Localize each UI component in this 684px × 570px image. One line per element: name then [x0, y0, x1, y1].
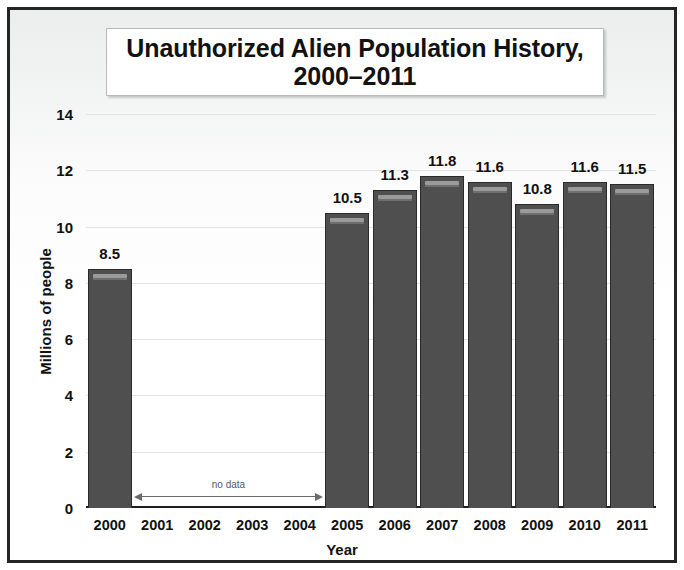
no-data-arrow-head-left	[134, 493, 142, 501]
y-axis-tick-label: 12	[56, 162, 73, 179]
y-axis-tick-label: 2	[65, 443, 73, 460]
x-axis-tick-label-2007: 2007	[426, 517, 458, 533]
bar-shade	[425, 185, 459, 187]
bar-shade	[520, 213, 554, 215]
x-axis-tick-label-2002: 2002	[189, 517, 221, 533]
bar-shade	[378, 199, 412, 201]
bar-shade	[93, 278, 127, 280]
bar-highlight	[425, 181, 459, 185]
bar-2011	[610, 184, 654, 508]
y-axis-tick-label: 8	[65, 274, 73, 291]
bar-value-label-2008: 11.6	[476, 158, 504, 175]
bar-highlight	[615, 189, 649, 193]
gridline	[86, 114, 656, 115]
y-axis-tick-label: 4	[65, 387, 73, 404]
chart-title-line-2: 2000–2011	[126, 62, 583, 90]
x-axis-tick-label-2003: 2003	[236, 517, 268, 533]
chart-title-line-1: Unauthorized Alien Population History,	[126, 34, 583, 62]
bar-value-label-2007: 11.8	[428, 152, 456, 169]
y-axis-tick-label: 14	[56, 106, 73, 123]
plot-area: 024681012148.52000200120022003200410.520…	[86, 114, 656, 508]
bar-value-label-2005: 10.5	[333, 189, 362, 206]
bar-shade	[568, 191, 602, 193]
bar-highlight	[93, 274, 127, 278]
bar-2000	[88, 269, 132, 508]
chart-title: Unauthorized Alien Population History, 2…	[120, 34, 589, 90]
x-axis-tick-label-2009: 2009	[521, 517, 553, 533]
bar-value-label-2010: 11.6	[571, 158, 599, 175]
bar-highlight	[378, 195, 412, 199]
x-axis-tick-label-2004: 2004	[284, 517, 316, 533]
chart-frame: Unauthorized Alien Population History, 2…	[7, 7, 677, 563]
bar-value-label-2000: 8.5	[99, 245, 120, 262]
bar-2009	[515, 204, 559, 508]
bar-2005	[325, 213, 369, 509]
x-axis-tick-label-2005: 2005	[331, 517, 363, 533]
x-axis-tick-label-2000: 2000	[94, 517, 126, 533]
x-axis-tick-label-2008: 2008	[474, 517, 506, 533]
bar-2008	[468, 182, 512, 508]
bar-shade	[473, 191, 507, 193]
bar-value-label-2011: 11.5	[618, 160, 646, 177]
x-axis-tick-label-2006: 2006	[379, 517, 411, 533]
y-axis-tick-label: 10	[56, 218, 73, 235]
bar-2010	[563, 182, 607, 508]
bar-shade	[330, 222, 364, 224]
x-axis-tick-label-2010: 2010	[569, 517, 601, 533]
no-data-annotation-label: no data	[212, 479, 245, 490]
bar-2006	[373, 190, 417, 508]
bar-highlight	[473, 187, 507, 191]
chart-title-box: Unauthorized Alien Population History, 2…	[106, 28, 604, 96]
y-axis-tick-label: 6	[65, 331, 73, 348]
bar-value-label-2006: 11.3	[381, 166, 409, 183]
y-axis-title: Millions of people	[34, 114, 56, 508]
bar-highlight	[520, 209, 554, 213]
x-axis-tick-label-2011: 2011	[617, 517, 648, 533]
bar-highlight	[330, 218, 364, 222]
bar-2007	[420, 176, 464, 508]
bar-value-label-2009: 10.8	[523, 180, 552, 197]
x-axis-title: Year	[10, 541, 674, 558]
bar-highlight	[568, 187, 602, 191]
bar-shade	[615, 193, 649, 195]
no-data-arrow-line	[142, 496, 316, 497]
chart-screenshot: Unauthorized Alien Population History, 2…	[0, 0, 684, 570]
y-axis-tick-label: 0	[65, 500, 73, 517]
x-axis-tick-label-2001: 2001	[141, 517, 173, 533]
y-axis-title-label: Millions of people	[37, 248, 54, 375]
no-data-arrow-head-right	[315, 493, 323, 501]
